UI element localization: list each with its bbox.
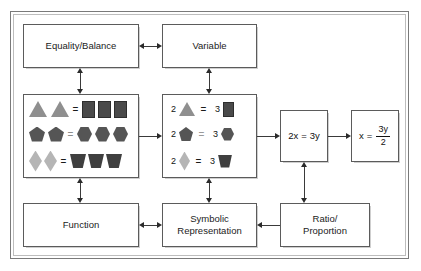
diamond-shape xyxy=(29,151,42,172)
node-variable[interactable]: Variable xyxy=(162,24,257,68)
node-equation-2x-3y[interactable]: 2x = 3y xyxy=(280,110,328,162)
arrowhead-up xyxy=(206,68,212,73)
triangle-shape xyxy=(179,102,195,116)
diamond-shape xyxy=(44,151,57,172)
pictorial-row-2: = xyxy=(29,125,135,143)
connector-pictorial-numeric xyxy=(139,136,157,137)
pentagon-shape xyxy=(48,127,64,142)
coefficient-right: 3 xyxy=(212,104,223,114)
arrowhead-right xyxy=(275,133,280,139)
square-shape xyxy=(82,101,95,118)
label-line-1: Ratio/ xyxy=(313,213,338,224)
square-shape xyxy=(223,102,234,117)
label-line-2: Representation xyxy=(177,225,241,236)
numeric-row-1: 2 = 3 xyxy=(168,99,254,119)
equals-operator: = xyxy=(195,104,212,115)
node-equation-x-3y-over-2[interactable]: x = 3y 2 xyxy=(351,110,399,162)
connector-equation1-equation2 xyxy=(328,136,346,137)
arrowhead-up xyxy=(77,178,83,183)
node-symbolic-representation-label: Symbolic Representation xyxy=(177,213,241,237)
connector-equality-pictorial xyxy=(80,73,81,89)
equation-operator: = xyxy=(301,130,307,142)
arrowhead-up xyxy=(77,68,83,73)
pictorial-row-1: = xyxy=(29,99,135,119)
connector-numeric-equation1 xyxy=(257,136,275,137)
diagram-canvas: Equality/Balance Variable = = = xyxy=(0,0,421,271)
connector-equality-variable xyxy=(144,46,157,47)
triangle-shape xyxy=(51,101,69,117)
equals-operator: = xyxy=(64,129,77,140)
arrowhead-down xyxy=(206,89,212,94)
coefficient-left: 2 xyxy=(168,104,179,114)
trapezoid-shape xyxy=(218,155,232,168)
arrowhead-down xyxy=(77,198,83,203)
label-line-1: Symbolic xyxy=(190,213,229,224)
node-ratio-proportion[interactable]: Ratio/ Proportion xyxy=(280,203,370,247)
arrowhead-up xyxy=(301,162,307,167)
hexagon-shape xyxy=(113,127,128,142)
arrowhead-down xyxy=(301,198,307,203)
connector-numeric-symbolic xyxy=(209,183,210,198)
pentagon-shape xyxy=(29,127,45,142)
equation-expression: x = 3y 2 xyxy=(359,125,391,147)
equation-expression: 2x = 3y xyxy=(288,130,320,142)
equation-operator: = xyxy=(367,130,373,142)
diamond-shape xyxy=(179,152,190,171)
connector-equation1-ratio xyxy=(304,167,305,198)
square-shape xyxy=(98,101,111,118)
arrowhead-up xyxy=(206,178,212,183)
equals-operator: = xyxy=(69,104,82,115)
coefficient-right: 3 xyxy=(210,129,221,139)
connector-pictorial-function xyxy=(80,183,81,198)
equals-operator: = xyxy=(193,129,210,140)
node-ratio-proportion-label: Ratio/ Proportion xyxy=(303,213,347,237)
node-function-label: Function xyxy=(63,219,99,231)
arrowhead-down xyxy=(77,89,83,94)
hexagon-shape xyxy=(95,127,110,142)
coefficient-right: 3 xyxy=(207,156,218,166)
equation-lhs: x xyxy=(359,130,364,142)
equals-operator: = xyxy=(57,156,70,167)
arrowhead-right xyxy=(346,133,351,139)
label-line-2: Proportion xyxy=(303,225,347,236)
pictorial-row-3: = xyxy=(29,150,135,172)
node-equality-balance-label: Equality/Balance xyxy=(46,40,117,52)
hexagon-shape xyxy=(77,127,92,142)
equation-rhs: 3y xyxy=(310,130,320,142)
arrowhead-left xyxy=(139,43,144,49)
numeric-row-3: 2 = 3 xyxy=(168,150,254,172)
fraction-denominator: 2 xyxy=(379,138,388,147)
node-variable-label: Variable xyxy=(192,40,226,52)
connector-ratio-symbolic xyxy=(262,225,280,226)
arrowhead-right xyxy=(157,133,162,139)
node-symbolic-representation[interactable]: Symbolic Representation xyxy=(162,203,257,247)
arrowhead-right xyxy=(157,222,162,228)
coefficient-left: 2 xyxy=(168,156,179,166)
hexagon-shape xyxy=(221,128,234,141)
connector-function-symbolic xyxy=(144,225,157,226)
fraction-numerator: 3y xyxy=(376,125,390,134)
numeric-row-2: 2 = 3 xyxy=(168,125,254,143)
square-shape xyxy=(114,101,127,118)
pentagon-shape xyxy=(179,127,193,141)
equals-operator: = xyxy=(190,156,207,167)
trapezoid-shape xyxy=(88,154,104,168)
node-equality-balance[interactable]: Equality/Balance xyxy=(23,24,139,68)
coefficient-left: 2 xyxy=(168,129,179,139)
arrowhead-left xyxy=(257,222,262,228)
trapezoid-shape xyxy=(70,154,86,168)
triangle-shape xyxy=(29,101,47,117)
equation-lhs: 2x xyxy=(288,130,298,142)
arrowhead-left xyxy=(139,222,144,228)
fraction: 3y 2 xyxy=(376,125,390,147)
trapezoid-shape xyxy=(106,154,122,168)
connector-variable-numeric xyxy=(209,73,210,89)
node-function[interactable]: Function xyxy=(23,203,139,247)
arrowhead-right xyxy=(157,43,162,49)
arrowhead-down xyxy=(206,198,212,203)
